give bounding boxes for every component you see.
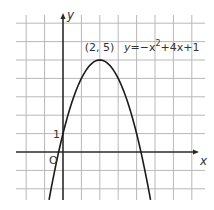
parabola-chart: x y (2, 5) 1 O y=−x2+4x+1	[0, 0, 214, 210]
y-axis-arrow-icon	[61, 13, 66, 19]
y-axis-label: y	[66, 8, 75, 22]
vertex-label: (2, 5)	[85, 41, 115, 54]
x-axis-arrow-icon	[193, 150, 199, 155]
x-axis-label: x	[199, 154, 208, 168]
equation-label: y=−x2+4x+1	[123, 39, 200, 54]
y-intercept-label: 1	[53, 128, 60, 141]
equation-suffix: +4x+1	[161, 41, 200, 54]
equation-middle: =−x	[131, 41, 156, 54]
origin-label: O	[49, 154, 58, 167]
